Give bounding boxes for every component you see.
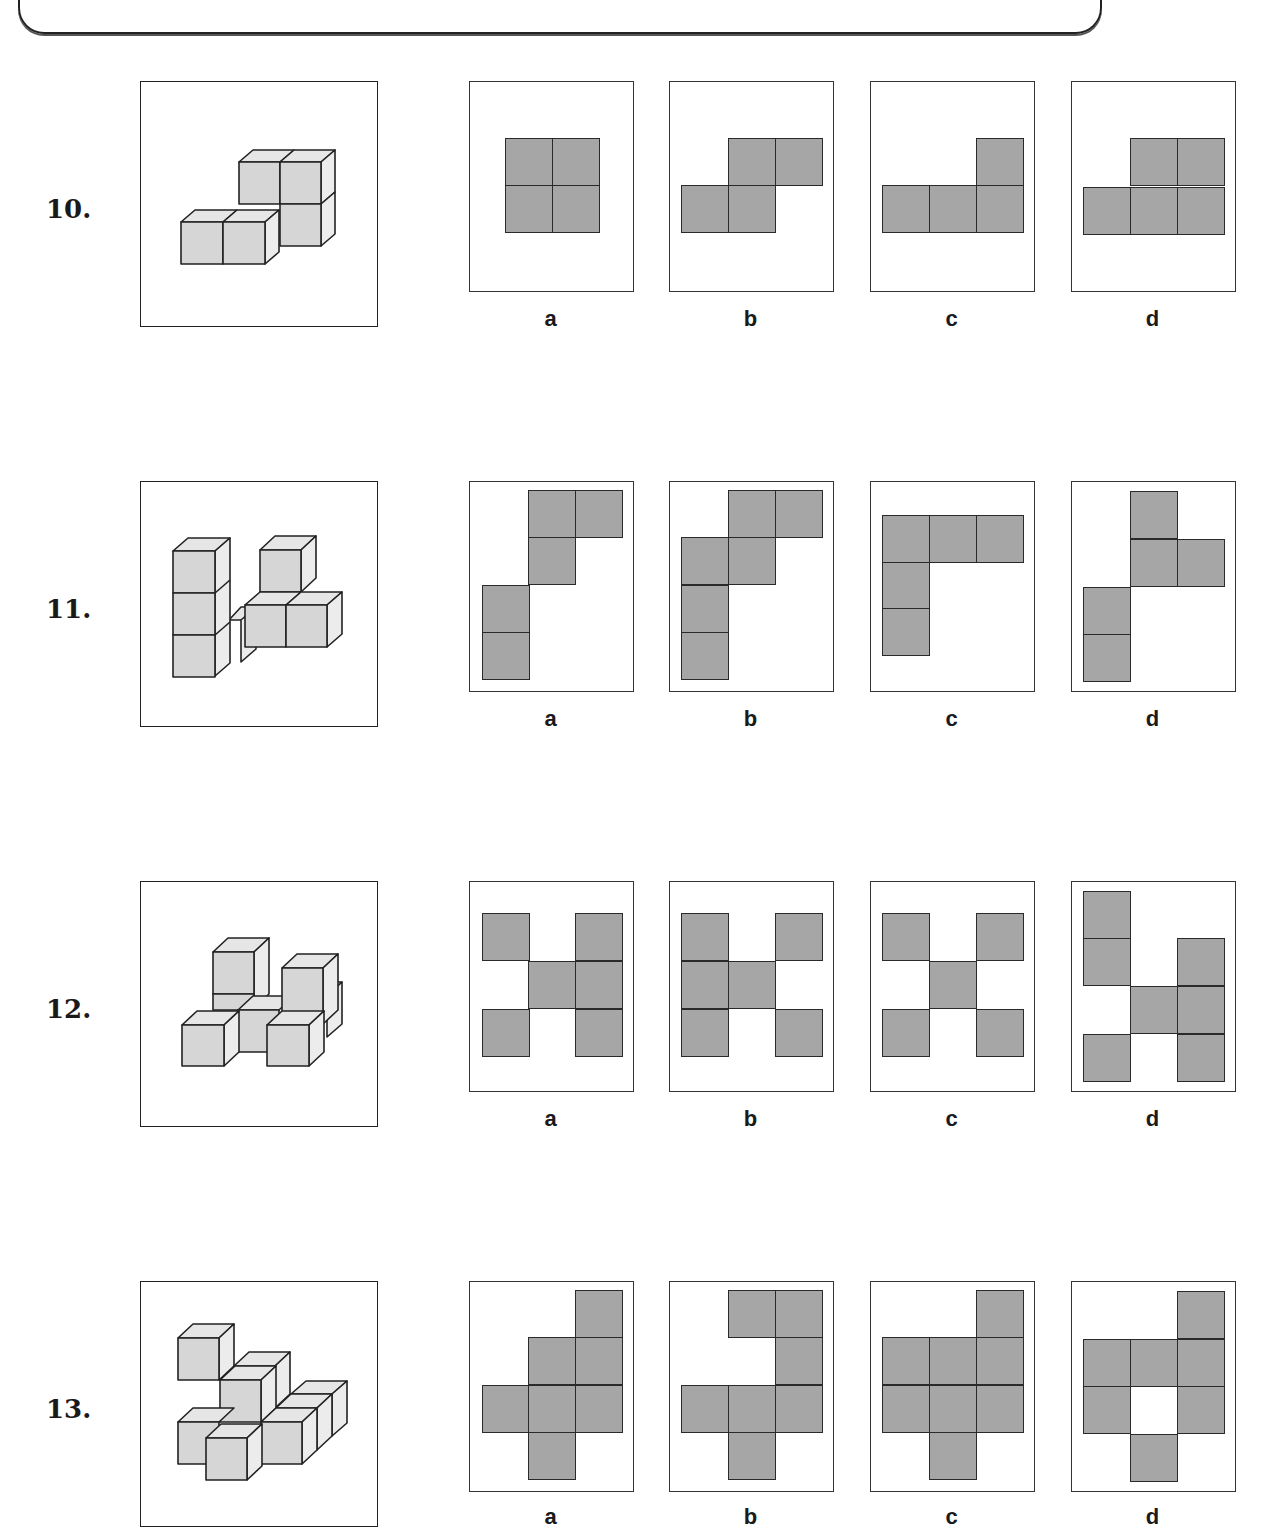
net-square [528, 1385, 576, 1433]
net-square [1083, 587, 1131, 635]
net-square [976, 1385, 1024, 1433]
net-square [882, 562, 930, 610]
net-square [1177, 938, 1225, 986]
net-square [681, 585, 729, 633]
net-square [575, 1337, 623, 1385]
net-square [929, 1385, 977, 1433]
option-12-d[interactable] [1071, 881, 1236, 1092]
option-label-11-c: c [870, 706, 1033, 732]
net-square [1130, 138, 1178, 186]
net-square [775, 1290, 823, 1338]
net-square [929, 185, 977, 233]
cube-figure-12 [140, 881, 378, 1127]
isometric-cubes-drawing [141, 1282, 377, 1526]
net-square [929, 1337, 977, 1385]
net-square [976, 913, 1024, 961]
net-square [728, 138, 776, 186]
question-number-10: 10. [46, 194, 91, 224]
net-square [882, 1009, 930, 1057]
net-square [976, 1290, 1024, 1338]
net-square [528, 537, 576, 585]
net-square [1130, 986, 1178, 1034]
net-square [775, 1385, 823, 1433]
net-square [482, 632, 530, 680]
isometric-cubes-drawing [141, 82, 377, 326]
net-square [728, 185, 776, 233]
net-square [1130, 491, 1178, 539]
option-11-c[interactable] [870, 481, 1035, 692]
option-11-a[interactable] [469, 481, 634, 692]
option-13-c[interactable] [870, 1281, 1035, 1492]
question-number-13: 13. [46, 1394, 91, 1424]
net-square [575, 913, 623, 961]
net-square [882, 185, 930, 233]
net-square [1083, 634, 1131, 682]
net-square [728, 1432, 776, 1480]
net-square [775, 138, 823, 186]
net-square [528, 1337, 576, 1385]
option-13-d[interactable] [1071, 1281, 1236, 1492]
net-square [1177, 1291, 1225, 1339]
option-12-a[interactable] [469, 881, 634, 1092]
net-square [775, 1337, 823, 1385]
net-square [1177, 187, 1225, 235]
net-square [505, 185, 553, 233]
net-square [1083, 1386, 1131, 1434]
net-square [775, 1009, 823, 1057]
cube-figure-13 [140, 1281, 378, 1527]
option-label-13-b: b [669, 1504, 832, 1530]
option-10-b[interactable] [669, 81, 834, 292]
net-square [775, 490, 823, 538]
option-10-d[interactable] [1071, 81, 1236, 292]
option-label-12-d: d [1071, 1106, 1234, 1132]
net-square [482, 1385, 530, 1433]
isometric-cubes-drawing [141, 482, 377, 726]
net-square [681, 961, 729, 1009]
option-11-d[interactable] [1071, 481, 1236, 692]
net-square [681, 632, 729, 680]
net-square [552, 138, 600, 186]
option-13-a[interactable] [469, 1281, 634, 1492]
net-square [528, 1432, 576, 1480]
isometric-cubes-drawing [141, 882, 377, 1126]
option-12-c[interactable] [870, 881, 1035, 1092]
option-label-10-b: b [669, 306, 832, 332]
net-square [929, 961, 977, 1009]
option-10-c[interactable] [870, 81, 1035, 292]
net-square [1130, 1434, 1178, 1482]
net-square [575, 961, 623, 1009]
net-square [1177, 1339, 1225, 1387]
net-square [1083, 187, 1131, 235]
net-square [575, 1009, 623, 1057]
net-square [528, 490, 576, 538]
option-11-b[interactable] [669, 481, 834, 692]
option-label-10-d: d [1071, 306, 1234, 332]
cube-figure-11 [140, 481, 378, 727]
option-13-b[interactable] [669, 1281, 834, 1492]
net-square [681, 913, 729, 961]
net-square [681, 185, 729, 233]
net-square [1083, 1339, 1131, 1387]
net-square [1177, 1386, 1225, 1434]
net-square [882, 608, 930, 656]
net-square [976, 1009, 1024, 1057]
net-square [482, 913, 530, 961]
net-square [976, 1337, 1024, 1385]
net-square [681, 1009, 729, 1057]
net-square [728, 961, 776, 1009]
net-square [882, 515, 930, 563]
net-square [681, 537, 729, 585]
net-square [1130, 187, 1178, 235]
net-square [575, 1385, 623, 1433]
net-square [728, 490, 776, 538]
question-number-11: 11. [46, 594, 91, 624]
net-square [482, 1009, 530, 1057]
option-12-b[interactable] [669, 881, 834, 1092]
net-square [1130, 539, 1178, 587]
option-label-12-c: c [870, 1106, 1033, 1132]
option-10-a[interactable] [469, 81, 634, 292]
option-label-11-a: a [469, 706, 632, 732]
net-square [976, 185, 1024, 233]
net-square [482, 585, 530, 633]
net-square [1083, 938, 1131, 986]
